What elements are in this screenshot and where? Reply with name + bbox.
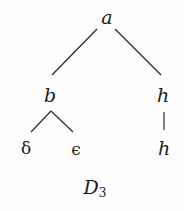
diagram-caption: D3 [84, 178, 107, 199]
node-delta: δ [21, 140, 31, 157]
tree-diagram: a b h δ ϵ h D3 [0, 0, 184, 211]
node-h-lower: h [158, 139, 170, 158]
node-epsilon: ϵ [71, 141, 81, 158]
node-b: b [44, 86, 56, 105]
caption-subscript: 3 [99, 186, 107, 200]
edge-b-epsilon [51, 111, 73, 132]
caption-main: D [84, 176, 99, 198]
edge-a-h [115, 29, 161, 75]
edge-b-delta [31, 111, 51, 132]
node-h-upper: h [157, 86, 169, 105]
edge-a-b [52, 29, 97, 75]
node-a: a [101, 8, 112, 27]
